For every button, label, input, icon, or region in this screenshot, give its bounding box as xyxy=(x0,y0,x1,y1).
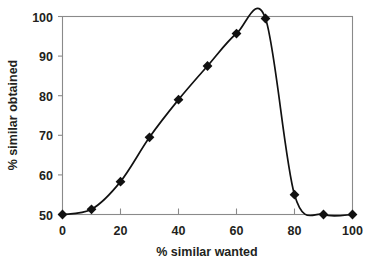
y-tick-label-70: 70 xyxy=(39,129,53,143)
x-tick-label-0: 0 xyxy=(59,224,66,238)
data-curve xyxy=(63,8,353,216)
y-tick-label-80: 80 xyxy=(39,90,53,104)
data-point-7 xyxy=(261,14,271,24)
data-markers xyxy=(58,14,358,220)
y-tick-label-60: 60 xyxy=(39,169,53,183)
x-tick-label-20: 20 xyxy=(114,224,128,238)
data-point-10 xyxy=(348,210,358,220)
chart-canvas: 100 90 80 70 60 50 0 20 40 60 80 100 % s… xyxy=(0,0,379,264)
x-axis-title: % similar wanted xyxy=(156,245,257,259)
x-tick-label-40: 40 xyxy=(172,224,186,238)
data-point-8 xyxy=(290,190,300,200)
data-point-0 xyxy=(58,210,68,220)
y-axis-title: % similar obtained xyxy=(6,60,20,170)
data-point-1 xyxy=(87,204,97,214)
y-tick-label-100: 100 xyxy=(32,11,53,25)
data-point-9 xyxy=(319,210,329,220)
x-tick-label-100: 100 xyxy=(342,224,363,238)
plot-frame xyxy=(63,17,353,215)
y-tick-label-50: 50 xyxy=(39,209,53,223)
x-tick-label-60: 60 xyxy=(230,224,244,238)
x-tick-label-80: 80 xyxy=(288,224,302,238)
chart-figure: 100 90 80 70 60 50 0 20 40 60 80 100 % s… xyxy=(0,0,379,264)
x-axis-ticks xyxy=(63,209,353,215)
y-axis-ticks xyxy=(58,17,63,215)
y-tick-label-90: 90 xyxy=(39,50,53,64)
